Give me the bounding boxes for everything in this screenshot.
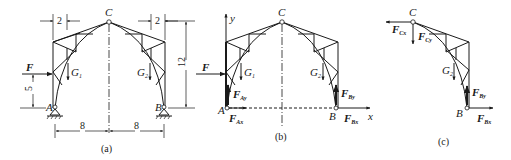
svg-text:G1: G1 — [71, 66, 82, 79]
label-g2: G — [310, 66, 318, 78]
svg-text:G2: G2 — [310, 66, 321, 79]
dimension-top-left: 2 — [40, 14, 80, 40]
svg-text:FCx: FCx — [391, 23, 406, 36]
svg-text:C: C — [278, 6, 286, 18]
label-f: F — [201, 61, 210, 73]
svg-text:FAx: FAx — [228, 112, 243, 125]
svg-text:8: 8 — [80, 120, 85, 131]
svg-text:FBy: FBy — [340, 87, 355, 100]
label-y-axis: y — [229, 12, 235, 24]
svg-text:12: 12 — [176, 57, 187, 67]
label-g2: G — [137, 66, 145, 78]
svg-text:C: C — [409, 6, 417, 18]
svg-text:G2: G2 — [137, 66, 148, 79]
dimension-top-right: 2 — [138, 14, 178, 40]
svg-text:A: A — [45, 101, 53, 113]
right-half-truss — [109, 22, 165, 108]
svg-text:FBy: FBy — [471, 86, 486, 99]
svg-text:G1: G1 — [244, 66, 255, 79]
label-b: B — [329, 110, 336, 122]
dimension-height-left: 5 — [20, 75, 46, 108]
panel-a: C A B F G1 G2 2 — [20, 6, 195, 155]
svg-text:B: B — [329, 110, 336, 122]
caption-b: (b) — [275, 131, 287, 143]
label-a: A — [45, 101, 53, 113]
label-g2: G — [442, 64, 450, 76]
svg-text:8: 8 — [134, 120, 139, 131]
svg-text:C: C — [105, 6, 113, 18]
label-b: B — [155, 101, 162, 113]
left-half-truss — [53, 22, 109, 108]
hinge-c — [280, 20, 284, 24]
three-hinged-arch-figure: C A B F G1 G2 2 — [0, 0, 511, 160]
svg-text:B: B — [456, 107, 463, 119]
hinge-c — [411, 20, 415, 24]
panel-b: C y x A B F G1 G2 FAy FAx FBy FBx (b) — [196, 6, 373, 143]
label-b: B — [456, 107, 463, 119]
right-half-truss — [282, 22, 338, 108]
caption-c: (c) — [438, 136, 449, 148]
svg-text:x: x — [367, 110, 373, 122]
svg-text:FAy: FAy — [232, 88, 247, 101]
svg-text:F: F — [201, 61, 210, 73]
hinge-c — [107, 20, 111, 24]
svg-text:FCy: FCy — [417, 30, 432, 43]
svg-text:A: A — [217, 104, 225, 116]
svg-text:FBx: FBx — [476, 112, 491, 125]
svg-text:F: F — [25, 61, 34, 73]
svg-text:2: 2 — [155, 15, 160, 26]
svg-text:G2: G2 — [442, 64, 453, 77]
svg-text:B: B — [155, 101, 162, 113]
label-c: C — [409, 6, 417, 18]
label-a: A — [217, 104, 225, 116]
label-c: C — [105, 6, 113, 18]
caption-a: (a) — [101, 143, 112, 155]
pin-a — [225, 106, 229, 110]
label-g1: G — [71, 66, 79, 78]
svg-text:5: 5 — [23, 86, 34, 91]
label-c: C — [278, 6, 286, 18]
dimension-height-right: 12 — [165, 21, 195, 108]
dimension-span: 8 8 — [55, 120, 164, 138]
pin-b — [465, 106, 469, 110]
label-x-axis: x — [367, 110, 373, 122]
svg-text:y: y — [229, 12, 235, 24]
label-f: F — [25, 61, 34, 73]
svg-text:FBx: FBx — [343, 112, 358, 125]
label-g1: G — [244, 66, 252, 78]
panel-c: C FCx FCy G2 B FBy FBx (c) — [386, 6, 493, 148]
svg-text:2: 2 — [57, 15, 62, 26]
